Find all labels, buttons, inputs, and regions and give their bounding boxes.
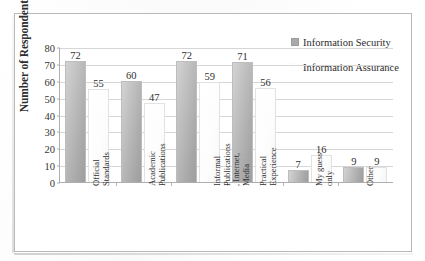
gridline xyxy=(60,116,393,117)
bar-value-label: 55 xyxy=(93,78,104,89)
y-axis-tick-label: 20 xyxy=(45,144,56,155)
y-axis-tick-label: 60 xyxy=(45,76,56,87)
y-axis-tick-label: 50 xyxy=(45,93,56,104)
y-axis-tick-label: 0 xyxy=(50,178,55,189)
x-axis-label-0: Official Standards xyxy=(92,152,111,186)
x-axis-label-1: Academic Publications xyxy=(148,144,167,187)
gridline xyxy=(60,65,393,66)
frame-shadow-left xyxy=(12,15,14,253)
y-axis-tick-label: 70 xyxy=(45,59,56,70)
y-axis-tick-label: 30 xyxy=(45,127,56,138)
bar-value-label: 71 xyxy=(237,51,248,62)
bar-information-security[interactable]: 72 xyxy=(176,61,197,183)
y-axis-tick-label: 40 xyxy=(45,110,56,121)
x-axis-category-separator xyxy=(283,182,284,186)
y-axis-tick-mark xyxy=(57,98,60,99)
bar-value-label: 7 xyxy=(296,159,301,170)
y-axis-tick-mark xyxy=(57,48,60,49)
gridline xyxy=(60,82,393,83)
y-axis-tick-mark xyxy=(57,81,60,82)
x-axis-category-separator xyxy=(116,182,117,186)
y-axis-title: Number of Respondents xyxy=(18,0,30,122)
y-axis-tick-label: 10 xyxy=(45,161,56,172)
bar-value-label: 47 xyxy=(149,92,160,103)
bar-information-security[interactable]: 72 xyxy=(65,61,86,183)
x-axis-label-5: Other xyxy=(366,166,376,186)
bar-value-label: 9 xyxy=(351,156,356,167)
legend-label-security: Information Security xyxy=(303,37,391,48)
y-axis-tick-mark xyxy=(57,132,60,133)
y-axis-tick-mark xyxy=(57,166,60,167)
x-axis-category-separator xyxy=(171,182,172,186)
y-axis-tick-mark xyxy=(57,149,60,150)
y-axis-tick-mark xyxy=(57,64,60,65)
legend-swatch-security-icon xyxy=(291,38,299,46)
frame-shadow-bottom xyxy=(14,253,413,255)
y-axis-tick-label: 80 xyxy=(45,43,56,54)
bar-value-label: 72 xyxy=(70,50,81,61)
bar-value-label: 72 xyxy=(182,50,193,61)
y-axis-tick-mark xyxy=(57,115,60,116)
x-axis-label-2: Informal Publications , Internet, Media xyxy=(213,144,251,187)
gridline xyxy=(60,99,393,100)
bar-information-security[interactable]: 60 xyxy=(121,81,142,182)
x-axis-category-separator xyxy=(338,182,339,186)
bar-value-label: 60 xyxy=(126,70,137,81)
gridline xyxy=(60,132,393,133)
bar-information-security[interactable]: 7 xyxy=(288,170,309,182)
bar-information-security[interactable]: 9 xyxy=(343,167,364,182)
y-axis-tick-mark xyxy=(57,183,60,184)
x-axis-label-3: Practical Experience xyxy=(259,147,278,186)
gridline xyxy=(60,48,393,49)
bar-value-label: 56 xyxy=(260,77,271,88)
x-axis-label-4: My guess only xyxy=(315,153,334,186)
bar-value-label: 59 xyxy=(205,71,216,82)
